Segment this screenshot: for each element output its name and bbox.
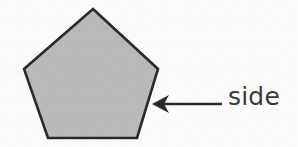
pentagon-side-diagram: side [0, 0, 298, 147]
diagram-canvas [0, 0, 298, 147]
side-label: side [228, 84, 280, 109]
pentagon-shape [24, 9, 158, 138]
side-arrow [152, 95, 222, 113]
